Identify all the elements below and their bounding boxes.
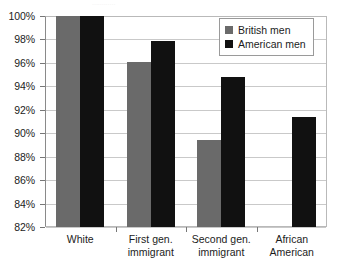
- bar: [292, 117, 316, 227]
- legend-label: American men: [238, 38, 306, 50]
- y-axis-tick-label: 100%: [9, 10, 35, 22]
- x-axis-category-label: White: [45, 233, 116, 246]
- y-axis-tick-label: 96%: [14, 57, 35, 69]
- chart-title-remnant: ............: [92, 0, 252, 6]
- legend-swatch-icon: [225, 26, 233, 34]
- bar: [197, 140, 221, 227]
- x-axis-tick-mark: [257, 227, 258, 232]
- bar: [151, 41, 175, 227]
- chart-legend: British menAmerican men: [219, 18, 314, 56]
- y-axis-tick-label: 86%: [14, 174, 35, 186]
- x-axis-tick-mark: [116, 227, 117, 232]
- x-axis-category-label: AfricanAmerican: [257, 233, 328, 258]
- y-axis: 100%98%96%94%92%90%88%86%84%82%: [0, 0, 45, 261]
- x-axis-category-label: Second gen.immigrant: [186, 233, 257, 258]
- x-axis-tick-mark: [186, 227, 187, 232]
- bar-chart: ............ 100%98%96%94%92%90%88%86%84…: [0, 0, 341, 261]
- bar: [80, 16, 104, 227]
- x-axis-category-label: First gen.immigrant: [116, 233, 187, 258]
- legend-item: British men: [225, 23, 306, 37]
- y-axis-tick-label: 94%: [14, 80, 35, 92]
- legend-item: American men: [225, 37, 306, 51]
- y-axis-tick-label: 82%: [14, 221, 35, 233]
- y-axis-tick-label: 92%: [14, 104, 35, 116]
- bar: [221, 77, 245, 227]
- bar: [56, 16, 80, 227]
- y-axis-tick-label: 90%: [14, 127, 35, 139]
- y-axis-tick-label: 98%: [14, 33, 35, 45]
- x-axis: WhiteFirst gen.immigrantSecond gen.immig…: [45, 227, 327, 261]
- y-axis-tick-label: 84%: [14, 198, 35, 210]
- bar: [127, 62, 151, 227]
- y-axis-tick-label: 88%: [14, 151, 35, 163]
- legend-label: British men: [238, 24, 291, 36]
- legend-swatch-icon: [225, 40, 233, 48]
